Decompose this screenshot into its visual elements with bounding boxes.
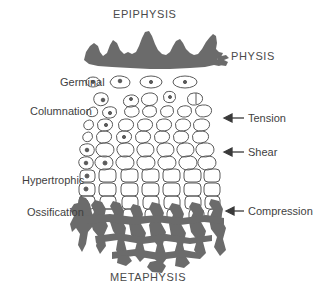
- force-label-compression: Compression: [248, 205, 313, 217]
- ossification-trabeculae: [70, 196, 226, 273]
- metaphysis-title: METAPHYSIS: [110, 271, 186, 283]
- zone-label-columnation: Columnation: [30, 105, 92, 117]
- growth-plate-diagram: EPIPHYSIS PHYSIS Germinal Columnation Hy…: [0, 0, 324, 291]
- zone-label-germinal: Germinal: [60, 76, 105, 88]
- epiphysis-title: EPIPHYSIS: [113, 8, 176, 20]
- zone-label-ossification: Ossification: [27, 206, 84, 218]
- shear-arrow: [224, 148, 244, 156]
- compression-arrow: [226, 207, 244, 215]
- force-arrows: [224, 114, 244, 215]
- force-label-shear: Shear: [248, 146, 277, 158]
- physis-label: PHYSIS: [231, 50, 275, 62]
- force-label-tension: Tension: [248, 112, 286, 124]
- zone-label-hypertrophic: Hypertrophic: [22, 174, 84, 186]
- epiphysis-bone-shape: [84, 31, 229, 69]
- tension-arrow: [224, 114, 244, 122]
- columnation-zone-cells: [83, 91, 212, 143]
